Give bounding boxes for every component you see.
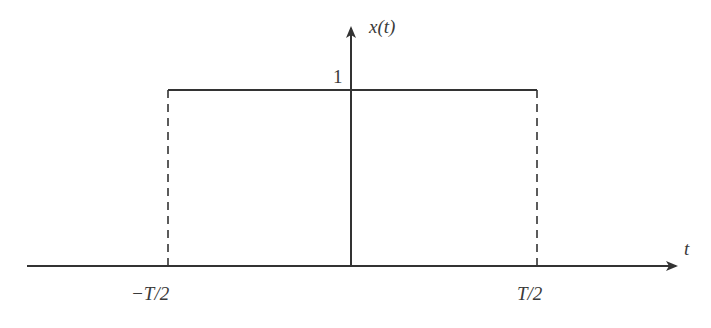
right-edge-label: T/2 bbox=[517, 283, 543, 304]
x-axis-label: t bbox=[684, 238, 690, 259]
pulse-diagram: x(t) t 1 −T/2 T/2 bbox=[0, 0, 711, 328]
y-axis-label: x(t) bbox=[368, 16, 395, 38]
left-edge-label: −T/2 bbox=[131, 283, 170, 304]
amplitude-label: 1 bbox=[333, 66, 343, 87]
